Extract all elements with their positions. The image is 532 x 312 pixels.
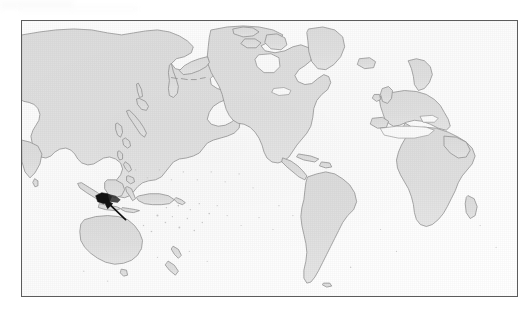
- map-frame: [21, 20, 518, 297]
- world-map-figure: [0, 0, 532, 312]
- world-map-svg: [22, 21, 517, 296]
- scan-artifact-top-left-secondary: [18, 6, 138, 12]
